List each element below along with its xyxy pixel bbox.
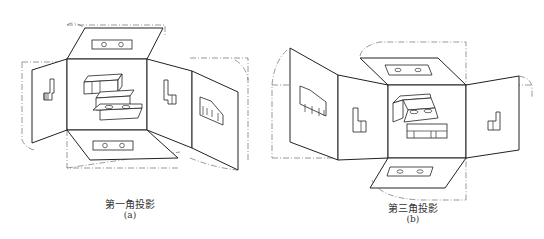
figure-a-first-angle — [22, 23, 248, 170]
caption-b-label: (b) — [358, 214, 468, 225]
caption-a-label: (a) — [70, 210, 190, 221]
caption-b: 第三角投影 (b) — [358, 203, 468, 225]
right-plane-b — [466, 76, 519, 158]
figure-b-third-angle — [272, 42, 532, 200]
left-plane-b — [338, 75, 388, 160]
left-plane-a — [32, 59, 67, 143]
caption-a: 第一角投影 (a) — [70, 199, 190, 221]
caption-b-title: 第三角投影 — [358, 203, 468, 214]
caption-a-title: 第一角投影 — [70, 199, 190, 210]
